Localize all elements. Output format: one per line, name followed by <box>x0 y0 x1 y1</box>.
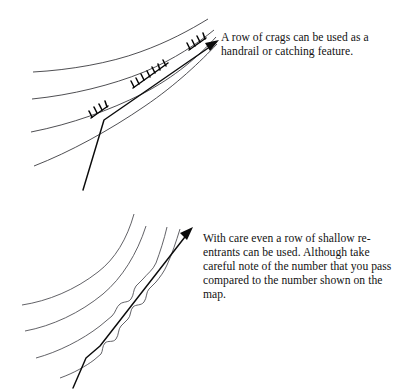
crag-group-lower <box>89 101 108 118</box>
route-line <box>83 44 214 190</box>
reentrant-route-arrowhead <box>180 227 193 240</box>
contour-line-1 <box>33 19 208 72</box>
contour-line-3 <box>31 37 216 132</box>
reentrant-contour-1 <box>22 214 134 305</box>
crags-caption: A row of crags can be used as a handrail… <box>221 31 399 59</box>
reentrant-contour-2 <box>25 226 146 331</box>
reentrants-caption: With care even a row of shallow re-entra… <box>203 232 399 302</box>
diagram-page: A row of crags can be used as a handrail… <box>0 0 403 389</box>
crag-group-upper <box>187 33 206 50</box>
crag-group-middle <box>131 60 168 88</box>
crags-figure <box>0 0 403 200</box>
reentrant-route-line <box>73 233 188 388</box>
